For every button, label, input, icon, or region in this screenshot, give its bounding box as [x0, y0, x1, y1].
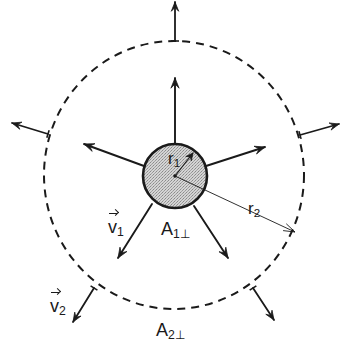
label-v1: v1	[108, 218, 124, 239]
A2-sub: 2⊥	[168, 328, 185, 342]
label-r1: r1	[168, 150, 180, 170]
arrow-shaft	[84, 144, 144, 166]
arrowhead-icon	[73, 312, 81, 322]
outer-velocity-arrow-2	[12, 122, 49, 138]
outer-velocity-arrow-3	[299, 123, 339, 139]
inner-velocity-arrow-2	[84, 144, 144, 166]
inner-velocity-arrow-5	[194, 206, 228, 258]
arrowhead-icon	[118, 247, 127, 258]
arrowhead-icon	[266, 310, 274, 320]
arrow-shaft	[206, 147, 265, 166]
inner-velocity-arrow-3	[206, 146, 265, 166]
r1-sub: 1	[174, 157, 180, 169]
diagram-canvas: r1 r2 v1 A1⊥ v2 A2⊥	[0, 0, 346, 343]
outer-velocity-arrow-4	[73, 286, 97, 322]
arrow-shaft	[300, 124, 339, 135]
A1-base: A	[161, 219, 173, 239]
arrowhead-icon	[219, 247, 228, 258]
r2-sub: 2	[254, 207, 260, 219]
label-A1-perp: A1⊥	[161, 220, 190, 241]
label-r2: r2	[248, 200, 260, 220]
open-arrowhead-icon	[283, 224, 295, 232]
inner-velocity-arrow-1	[171, 78, 179, 144]
outer-velocity-arrow-1	[171, 2, 179, 41]
label-v2: v2	[50, 297, 66, 318]
outer-velocity-arrow-5	[250, 286, 274, 320]
v1-sub: 1	[117, 225, 124, 239]
arrow-shaft	[194, 206, 228, 258]
v1-base: v	[108, 218, 117, 236]
v2-base: v	[50, 297, 59, 315]
v2-sub: 2	[59, 304, 66, 318]
A2-base: A	[156, 320, 168, 340]
A1-sub: 1⊥	[173, 227, 190, 241]
center-point	[173, 174, 177, 178]
label-A2-perp: A2⊥	[156, 321, 185, 342]
